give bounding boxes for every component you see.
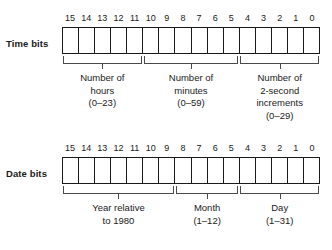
bit-index-11: 11 bbox=[127, 142, 143, 156]
caption-two-second-increments: Number of2-secondincrements(0–29) bbox=[226, 72, 332, 122]
date-bit-index-strip: 1514131211109876543210 bbox=[62, 142, 320, 156]
bit-index-10: 10 bbox=[143, 12, 159, 26]
bracket-tick-two-second-increments bbox=[280, 63, 281, 69]
bit-index-0: 0 bbox=[304, 142, 320, 156]
bit-index-9: 9 bbox=[159, 12, 175, 26]
bit-cell-5 bbox=[224, 158, 240, 183]
bracket-day bbox=[240, 186, 319, 194]
time-group-brackets bbox=[62, 56, 320, 68]
bit-index-13: 13 bbox=[94, 142, 110, 156]
bit-cell-9 bbox=[159, 28, 175, 53]
bracket-tick-minutes bbox=[191, 63, 192, 69]
bit-index-6: 6 bbox=[207, 142, 223, 156]
bit-index-15: 15 bbox=[62, 12, 78, 26]
bracket-tick-year bbox=[118, 193, 119, 199]
bit-index-1: 1 bbox=[288, 142, 304, 156]
caption-two-second-increments-line-0: Number of bbox=[226, 72, 332, 85]
bit-index-9: 9 bbox=[159, 142, 175, 156]
bit-index-13: 13 bbox=[94, 12, 110, 26]
date-group-brackets bbox=[62, 186, 320, 198]
bracket-minutes bbox=[144, 56, 239, 64]
bit-index-10: 10 bbox=[143, 142, 159, 156]
bit-index-7: 7 bbox=[191, 142, 207, 156]
bit-index-8: 8 bbox=[175, 142, 191, 156]
bit-cell-13 bbox=[95, 28, 111, 53]
date-group-captions: Year relativeto 1980Month(1–12)Day(1–31) bbox=[62, 202, 320, 250]
bit-cell-10 bbox=[143, 158, 159, 183]
bit-index-0: 0 bbox=[304, 12, 320, 26]
bit-cell-15 bbox=[63, 28, 79, 53]
bit-cell-0 bbox=[304, 158, 319, 183]
bit-cell-7 bbox=[192, 158, 208, 183]
bracket-tick-hours bbox=[102, 63, 103, 69]
caption-day-line-1: (1–31) bbox=[226, 215, 332, 228]
bit-cell-11 bbox=[127, 158, 143, 183]
bit-index-14: 14 bbox=[78, 142, 94, 156]
bit-index-12: 12 bbox=[110, 12, 126, 26]
bit-cell-1 bbox=[288, 28, 304, 53]
bit-index-2: 2 bbox=[272, 12, 288, 26]
caption-two-second-increments-line-2: increments bbox=[226, 97, 332, 110]
time-bit-index-strip: 1514131211109876543210 bbox=[62, 12, 320, 26]
bit-index-12: 12 bbox=[110, 142, 126, 156]
bit-index-5: 5 bbox=[223, 12, 239, 26]
caption-two-second-increments-line-3: (0–29) bbox=[226, 110, 332, 123]
bit-cell-7 bbox=[192, 28, 208, 53]
bit-cell-15 bbox=[63, 158, 79, 183]
caption-day: Day(1–31) bbox=[226, 202, 332, 227]
bit-cell-2 bbox=[272, 158, 288, 183]
date-bits-label: Date bits bbox=[6, 168, 58, 179]
bit-cell-2 bbox=[272, 28, 288, 53]
time-bits-label: Time bits bbox=[6, 38, 58, 49]
bracket-tick-day bbox=[280, 193, 281, 199]
bit-index-7: 7 bbox=[191, 12, 207, 26]
bracket-two-second-increments bbox=[240, 56, 319, 64]
bit-cell-8 bbox=[175, 158, 191, 183]
bracket-month bbox=[176, 186, 239, 194]
bit-cell-4 bbox=[240, 28, 256, 53]
bit-cell-3 bbox=[256, 158, 272, 183]
time-bit-cells bbox=[62, 27, 320, 54]
bit-cell-8 bbox=[175, 28, 191, 53]
bit-index-11: 11 bbox=[127, 12, 143, 26]
bit-index-2: 2 bbox=[272, 142, 288, 156]
bit-cell-12 bbox=[111, 158, 127, 183]
bit-cell-6 bbox=[208, 158, 224, 183]
bit-index-6: 6 bbox=[207, 12, 223, 26]
bitfield-diagram: Time bits 1514131211109876543210 Number … bbox=[0, 0, 332, 250]
bit-index-4: 4 bbox=[239, 12, 255, 26]
bit-cell-6 bbox=[208, 28, 224, 53]
bracket-hours bbox=[63, 56, 142, 64]
bit-cell-3 bbox=[256, 28, 272, 53]
date-bit-cells bbox=[62, 157, 320, 184]
bit-index-1: 1 bbox=[288, 12, 304, 26]
bit-cell-1 bbox=[288, 158, 304, 183]
bit-index-5: 5 bbox=[223, 142, 239, 156]
bracket-year bbox=[63, 186, 174, 194]
bit-cell-14 bbox=[79, 158, 95, 183]
bit-index-14: 14 bbox=[78, 12, 94, 26]
bit-index-4: 4 bbox=[239, 142, 255, 156]
bit-index-3: 3 bbox=[256, 12, 272, 26]
bit-index-15: 15 bbox=[62, 142, 78, 156]
bit-cell-11 bbox=[127, 28, 143, 53]
caption-day-line-0: Day bbox=[226, 202, 332, 215]
bracket-tick-month bbox=[207, 193, 208, 199]
bit-cell-4 bbox=[240, 158, 256, 183]
bit-cell-12 bbox=[111, 28, 127, 53]
bit-cell-13 bbox=[95, 158, 111, 183]
bit-cell-10 bbox=[143, 28, 159, 53]
bit-cell-5 bbox=[224, 28, 240, 53]
caption-two-second-increments-line-1: 2-second bbox=[226, 85, 332, 98]
bit-cell-14 bbox=[79, 28, 95, 53]
time-group-captions: Number ofhours(0–23)Number ofminutes(0–5… bbox=[62, 72, 320, 128]
bit-cell-9 bbox=[159, 158, 175, 183]
bit-index-8: 8 bbox=[175, 12, 191, 26]
bit-cell-0 bbox=[304, 28, 319, 53]
bit-index-3: 3 bbox=[256, 142, 272, 156]
